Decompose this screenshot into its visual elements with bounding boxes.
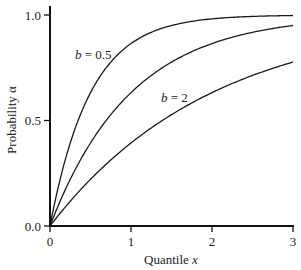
cdf-chart: 1.0 0.5 0.0 0 1 2 3 Quantile x Probabili… bbox=[0, 0, 301, 270]
x-tick-label: 3 bbox=[290, 234, 297, 249]
y-tick-label: 1.0 bbox=[25, 8, 41, 23]
curve-b2 bbox=[50, 62, 293, 226]
x-axis-label: Quantile x bbox=[144, 252, 198, 267]
x-tick-label: 1 bbox=[128, 234, 135, 249]
y-tick-label: 0.5 bbox=[25, 113, 41, 128]
curve-label-b05: b = 0.5 bbox=[75, 47, 112, 62]
curve-label-b2: b = 2 bbox=[161, 90, 188, 105]
y-tick-label: 0.0 bbox=[25, 219, 41, 234]
y-axis-label: Probability α bbox=[4, 86, 19, 154]
x-tick-label: 2 bbox=[209, 234, 216, 249]
x-tick-label: 0 bbox=[47, 234, 54, 249]
